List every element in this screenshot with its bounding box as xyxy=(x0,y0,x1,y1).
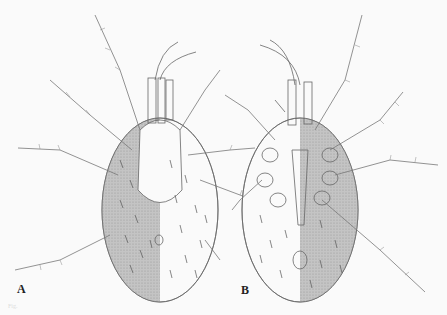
gnathosoma-ventral xyxy=(260,40,312,125)
propodosoma xyxy=(138,120,182,203)
leg-a3-left xyxy=(18,148,118,175)
leg-a2-left xyxy=(50,80,132,150)
gnathosoma-dorsal xyxy=(148,42,196,123)
panel-a-dorsal-view xyxy=(15,15,265,302)
leg-a1-right xyxy=(180,70,220,130)
leg-b2-right xyxy=(330,92,403,150)
mite-plate xyxy=(0,0,447,315)
panel-b-ventral-view xyxy=(225,15,438,302)
leg-a4-left xyxy=(15,235,110,270)
leg-a1-left xyxy=(95,15,140,130)
figure-caption: Fig. xyxy=(8,303,18,309)
panel-label-b: B xyxy=(241,283,249,298)
leg-b1-right xyxy=(315,15,362,130)
panel-label-a: A xyxy=(17,282,26,297)
